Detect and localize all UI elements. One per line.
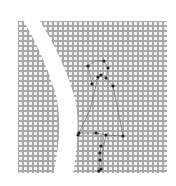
keypoint-marker bbox=[99, 73, 102, 76]
keypoint-marker bbox=[94, 131, 97, 134]
keypoint-marker bbox=[99, 167, 102, 170]
keypoint-marker bbox=[98, 158, 101, 161]
keypoint-marker bbox=[102, 59, 105, 62]
keypoint-marker bbox=[104, 133, 107, 136]
keypoint-marker bbox=[111, 84, 114, 87]
keypoint-marker bbox=[90, 82, 93, 85]
keypoint-marker bbox=[98, 151, 101, 154]
keypoint-marker bbox=[96, 75, 99, 78]
keypoint-marker bbox=[86, 64, 89, 67]
keypoint-marker bbox=[76, 133, 79, 136]
keypoint-marker bbox=[104, 76, 107, 79]
keypoint-marker bbox=[99, 144, 102, 147]
keypoint-marker bbox=[106, 66, 109, 69]
keypoint-marker bbox=[121, 134, 124, 137]
pose-image bbox=[0, 0, 176, 186]
